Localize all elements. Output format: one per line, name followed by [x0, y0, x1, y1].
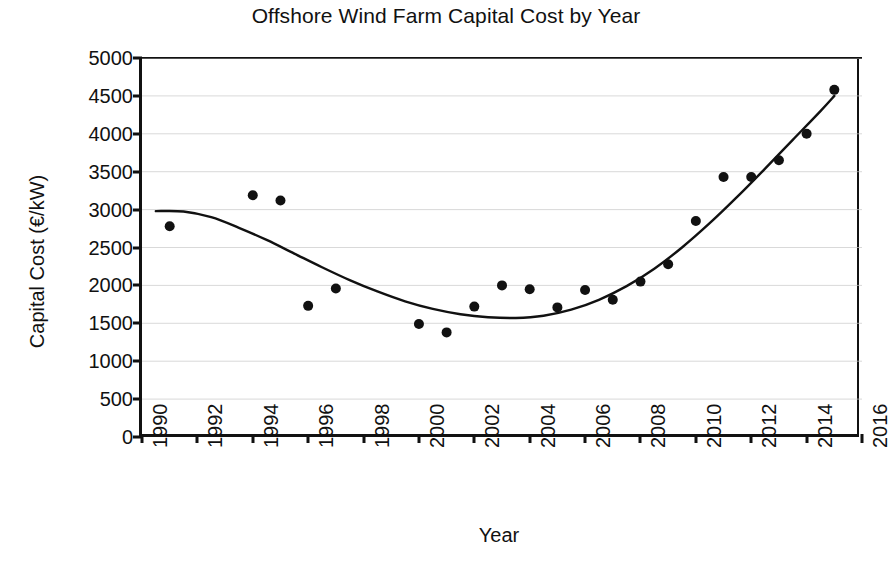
gridlines [142, 58, 862, 399]
plot-canvas [142, 58, 862, 437]
y-tick-label: 1500 [89, 312, 134, 335]
trend-path [156, 96, 834, 318]
y-tick-mark [133, 322, 142, 325]
x-tick-mark [750, 434, 753, 443]
x-tick-label: 2004 [537, 404, 560, 449]
x-tick-label: 1996 [315, 404, 338, 449]
data-point [165, 221, 175, 231]
x-tick-mark [307, 434, 310, 443]
x-tick-mark [639, 434, 642, 443]
x-tick-mark [861, 434, 864, 443]
y-tick-label: 3000 [89, 198, 134, 221]
y-tick-label: 500 [100, 388, 133, 411]
x-tick-label: 1994 [260, 404, 283, 449]
data-point [442, 327, 452, 337]
y-tick-label: 2000 [89, 274, 134, 297]
data-point [774, 155, 784, 165]
x-tick-mark [694, 434, 697, 443]
x-tick-label: 2002 [481, 404, 504, 449]
x-tick-mark [141, 434, 144, 443]
data-point [829, 85, 839, 95]
y-axis-label: Capital Cost (€/kW) [26, 97, 49, 427]
x-tick-mark [362, 434, 365, 443]
chart-title: Offshore Wind Farm Capital Cost by Year [0, 4, 892, 28]
x-tick-label: 2010 [703, 404, 726, 449]
data-point [608, 295, 618, 305]
data-point [691, 216, 701, 226]
data-point [414, 319, 424, 329]
y-tick-mark [133, 284, 142, 287]
y-tick-label: 4500 [89, 84, 134, 107]
data-point [719, 172, 729, 182]
y-tick-mark [133, 398, 142, 401]
data-point [303, 301, 313, 311]
x-tick-mark [251, 434, 254, 443]
x-tick-mark [473, 434, 476, 443]
data-point [746, 172, 756, 182]
x-tick-mark [528, 434, 531, 443]
y-tick-label: 5000 [89, 47, 134, 70]
x-tick-label: 1990 [149, 404, 172, 449]
data-point [552, 302, 562, 312]
y-tick-label: 2500 [89, 236, 134, 259]
y-tick-mark [133, 170, 142, 173]
data-point [580, 285, 590, 295]
y-tick-label: 0 [122, 426, 133, 449]
data-point [525, 284, 535, 294]
data-point [802, 129, 812, 139]
x-tick-label: 2000 [426, 404, 449, 449]
x-tick-label: 2008 [647, 404, 670, 449]
y-tick-mark [133, 132, 142, 135]
y-tick-label: 4000 [89, 122, 134, 145]
data-point [635, 277, 645, 287]
plot-area: 0500100015002000250030003500400045005000… [139, 58, 859, 437]
y-tick-mark [133, 94, 142, 97]
x-tick-label: 2016 [869, 404, 892, 449]
y-tick-label: 1000 [89, 350, 134, 373]
x-tick-mark [584, 434, 587, 443]
data-point [331, 283, 341, 293]
y-tick-mark [133, 57, 142, 60]
x-tick-mark [196, 434, 199, 443]
data-point [275, 196, 285, 206]
x-tick-label: 1998 [371, 404, 394, 449]
y-tick-mark [133, 360, 142, 363]
chart-figure: Offshore Wind Farm Capital Cost by Year … [0, 0, 892, 566]
data-point [497, 280, 507, 290]
y-tick-mark [133, 246, 142, 249]
data-point [469, 302, 479, 312]
y-tick-mark [133, 208, 142, 211]
x-tick-label: 1992 [204, 404, 227, 449]
x-tick-label: 2012 [758, 404, 781, 449]
x-tick-mark [805, 434, 808, 443]
data-points [165, 85, 840, 338]
y-tick-label: 3500 [89, 160, 134, 183]
data-point [248, 190, 258, 200]
x-tick-label: 2014 [814, 404, 837, 449]
x-axis-label: Year [139, 524, 859, 547]
x-tick-label: 2006 [592, 404, 615, 449]
data-point [663, 259, 673, 269]
trend-curve [156, 96, 834, 318]
x-tick-mark [417, 434, 420, 443]
